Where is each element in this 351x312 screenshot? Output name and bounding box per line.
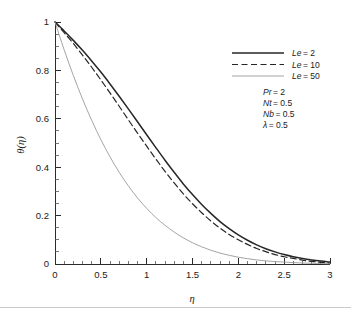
param-line-1: Nt= 0.5 xyxy=(263,98,292,108)
x-tick-label: 0 xyxy=(52,269,57,280)
legend-label-0: Le= 2 xyxy=(292,48,315,58)
parameter-annotation: Pr= 2Nt= 0.5Nb= 0.5λ= 0.5 xyxy=(262,87,295,130)
x-axis-ticks xyxy=(55,258,330,264)
curve-series-2 xyxy=(55,22,330,264)
legend-label-2: Le= 50 xyxy=(292,71,320,81)
y-axis-title: θ(η) xyxy=(15,136,27,154)
param-line-0: Pr= 2 xyxy=(263,87,285,97)
x-tick-label: 2.5 xyxy=(278,269,291,280)
y-tick-label: 0.6 xyxy=(36,113,49,124)
y-tick-label: 0.4 xyxy=(36,162,49,173)
param-line-3: λ= 0.5 xyxy=(262,120,288,130)
x-axis-title: η xyxy=(189,293,194,304)
x-tick-label: 0.5 xyxy=(94,269,107,280)
y-tick-label: 0.2 xyxy=(36,210,49,221)
legend-label-1: Le= 10 xyxy=(292,60,320,70)
curve-series-0 xyxy=(55,22,330,262)
y-axis-ticks xyxy=(55,22,61,264)
y-tick-label: 0 xyxy=(44,258,49,269)
figure-canvas: 00.511.522.53 00.20.40.60.81 η θ(η) Le= … xyxy=(0,0,351,312)
curve-series-1 xyxy=(55,22,330,263)
x-tick-label: 1.5 xyxy=(186,269,199,280)
x-tick-label: 3 xyxy=(327,269,332,280)
param-line-2: Nb= 0.5 xyxy=(263,109,295,119)
data-curves xyxy=(55,22,330,264)
y-tick-label: 1 xyxy=(44,16,49,27)
line-chart: 00.511.522.53 00.20.40.60.81 η θ(η) Le= … xyxy=(0,0,351,312)
y-tick-label: 0.8 xyxy=(36,65,49,76)
x-axis-tick-labels: 00.511.522.53 xyxy=(52,269,332,280)
legend: Le= 2Le= 10Le= 50 xyxy=(232,48,320,81)
bottom-divider xyxy=(0,307,351,308)
x-tick-label: 1 xyxy=(144,269,149,280)
y-axis-tick-labels: 00.20.40.60.81 xyxy=(36,16,49,269)
x-tick-label: 2 xyxy=(236,269,241,280)
